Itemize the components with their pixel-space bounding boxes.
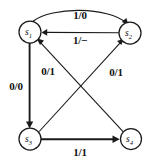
edge-label-s4-to-s1: 0/1 — [41, 65, 54, 77]
edge-label-s3-to-s2: 0/1 — [109, 66, 122, 78]
edge-label-s3-to-s4: 1/1 — [73, 146, 86, 158]
edge-s2-to-s1-arrowhead — [42, 29, 48, 36]
edge-s3-to-s4-arrowhead — [113, 136, 120, 143]
edge-s4-to-s1 — [37, 38, 124, 132]
edge-s1-to-s3 — [26, 43, 33, 129]
edge-s3-to-s2 — [39, 39, 124, 132]
node-s1[interactable]: s1 — [19, 21, 41, 43]
edge-label-s1-to-s2: 1/0 — [73, 9, 87, 21]
state-diagram-svg: 1/0 1/− 0/0 1/1 0/1 0/1 s1 s2 s3 s4 — [0, 0, 155, 166]
state-diagram-container: 1/0 1/− 0/0 1/1 0/1 0/1 s1 s2 s3 s4 — [0, 0, 155, 166]
node-s2[interactable]: s2 — [119, 22, 141, 44]
node-s3[interactable]: s3 — [19, 128, 41, 150]
node-s4[interactable]: s4 — [121, 129, 142, 150]
edge-s3-to-s4 — [41, 136, 120, 143]
edge-label-s1-to-s3: 0/0 — [9, 80, 23, 92]
edge-label-s2-to-s1: 1/− — [73, 34, 87, 46]
